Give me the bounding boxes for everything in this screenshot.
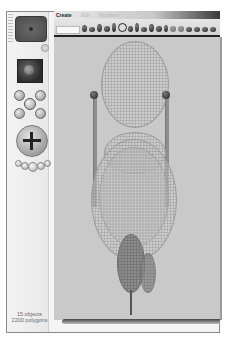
object-preview[interactable]	[15, 16, 47, 42]
shape-blob-icon[interactable]	[170, 26, 176, 32]
left-knob[interactable]	[90, 91, 98, 99]
rotate-center-icon[interactable]	[24, 98, 36, 110]
polygon-count: 2200 polygons	[7, 317, 52, 323]
rotate-right-icon[interactable]	[35, 90, 46, 101]
ruler	[8, 14, 13, 44]
shape-pyramid-icon[interactable]	[156, 26, 162, 32]
shape-cylinder-icon[interactable]	[97, 24, 102, 32]
move-control[interactable]	[16, 125, 48, 157]
rotate-left-icon[interactable]	[14, 90, 25, 101]
shape-prism-icon[interactable]	[149, 24, 154, 32]
tilt-down-right-icon[interactable]	[35, 108, 46, 119]
shape-oval-icon[interactable]	[202, 27, 208, 32]
shape-tube-icon[interactable]	[112, 23, 116, 32]
shape-torus-icon[interactable]	[104, 26, 110, 32]
rotate-control[interactable]	[12, 86, 46, 122]
panel-toggle-button[interactable]	[41, 44, 49, 52]
inner-body-wireframe[interactable]	[99, 147, 169, 247]
zoom-step-icon[interactable]	[44, 160, 51, 167]
material-swatch[interactable]	[17, 59, 43, 83]
viewport-shadow	[62, 319, 220, 324]
head-wireframe[interactable]	[101, 41, 169, 128]
scene-stats: 15 objects 2200 polygons	[7, 311, 52, 323]
right-knob[interactable]	[162, 91, 170, 99]
shape-spindle-icon[interactable]	[164, 25, 168, 32]
menu-edit[interactable]: Edit	[81, 12, 90, 18]
shape-oval-icon[interactable]	[186, 27, 192, 32]
3d-viewport[interactable]	[54, 37, 222, 320]
shape-capsule-icon[interactable]	[128, 26, 133, 32]
zoom-control[interactable]	[15, 158, 49, 170]
menu-bar: Create Edit Modifiers	[54, 11, 220, 19]
shape-oval-icon[interactable]	[194, 27, 200, 32]
menu-create[interactable]: Create	[56, 12, 72, 18]
tilt-down-left-icon[interactable]	[14, 108, 25, 119]
tool-panel	[7, 12, 49, 332]
shape-oval-icon[interactable]	[210, 27, 216, 32]
shape-shelf	[54, 19, 220, 37]
shape-sphere-icon[interactable]	[89, 27, 95, 32]
shape-disk-icon[interactable]	[141, 27, 147, 32]
shape-gear-icon[interactable]	[178, 26, 184, 32]
menu-modifiers[interactable]: Modifiers	[99, 12, 119, 18]
shelf-base-plate[interactable]	[56, 26, 80, 34]
shape-ring-icon[interactable]	[118, 23, 127, 32]
bottom-spike[interactable]	[130, 290, 132, 315]
preview-dot-icon	[29, 27, 33, 31]
move-arrows-icon-v	[30, 132, 33, 150]
shape-cone-icon[interactable]	[82, 25, 87, 32]
shape-pillar-icon[interactable]	[135, 23, 139, 32]
side-solid-part[interactable]	[140, 253, 156, 293]
